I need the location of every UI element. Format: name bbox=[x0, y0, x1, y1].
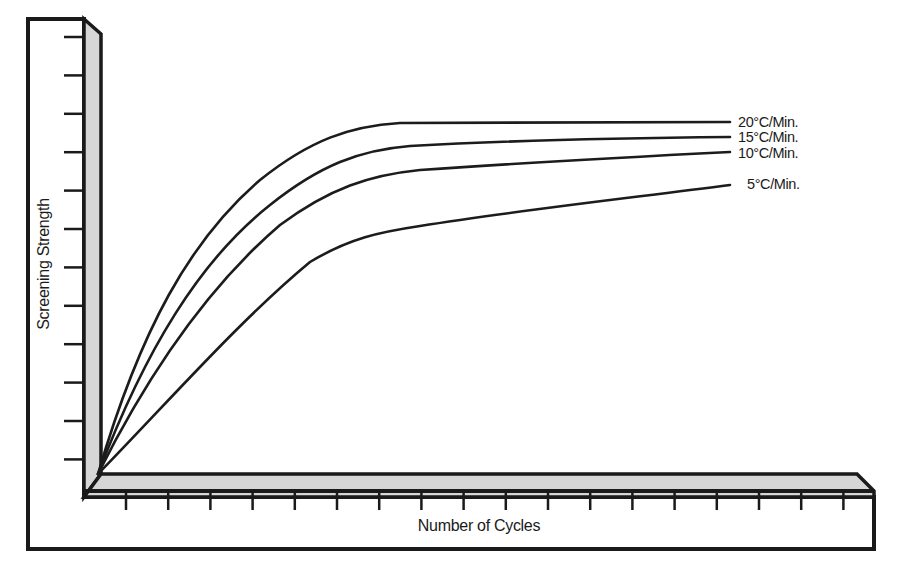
x-axis-bevel bbox=[84, 474, 874, 497]
curve-15c-per-min bbox=[98, 137, 730, 474]
legend-label-20c: 20°C/Min. bbox=[738, 114, 798, 130]
legend-label-15c: 15°C/Min. bbox=[738, 129, 798, 145]
curve-10c-per-min bbox=[98, 152, 730, 474]
y-axis-label: Screening Strength bbox=[35, 198, 52, 330]
legend-label-10c: 10°C/Min. bbox=[738, 145, 798, 161]
axis-frame bbox=[28, 19, 874, 549]
screening-strength-chart: 20°C/Min. 15°C/Min. 10°C/Min. 5°C/Min. S… bbox=[0, 0, 897, 575]
curve-5c-per-min bbox=[98, 185, 730, 474]
y-axis-bevel bbox=[84, 19, 101, 497]
y-axis-ticks bbox=[64, 37, 84, 459]
x-axis-label: Number of Cycles bbox=[418, 517, 541, 534]
curve-20c-per-min bbox=[98, 122, 730, 474]
legend-label-5c: 5°C/Min. bbox=[747, 176, 800, 192]
